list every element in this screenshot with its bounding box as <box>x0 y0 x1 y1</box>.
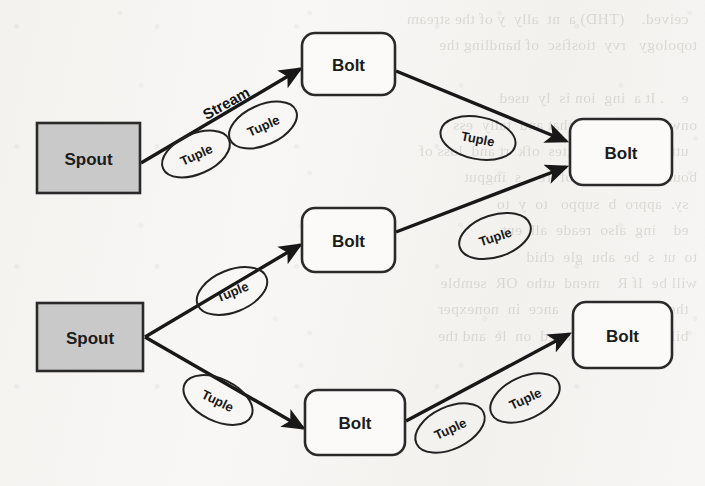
node-spout-1-label: Spout <box>64 150 112 169</box>
node-bolt-5[interactable]: Bolt <box>573 302 672 368</box>
edge-spout2-to-bolt3 <box>145 337 303 428</box>
node-spout-2[interactable]: Spout <box>37 303 143 371</box>
tuple-annotation-6: Tuple <box>176 365 261 435</box>
scanned-page: ceived. (THD) a nt ally y of the stream … <box>0 0 705 486</box>
node-bolt-1[interactable]: Bolt <box>302 33 395 95</box>
node-bolt-4-label: Bolt <box>604 144 637 163</box>
node-bolt-2[interactable]: Bolt <box>302 208 395 272</box>
tuple-label-1: Tuple <box>178 141 215 168</box>
tuple-label-3: Tuple <box>460 128 496 149</box>
node-bolt-2-label: Bolt <box>332 232 365 251</box>
storm-topology-diagram: Spout Spout Bolt Bolt Bolt Bolt <box>0 0 705 486</box>
tuple-label-2: Tuple <box>245 112 282 139</box>
node-spout-2-label: Spout <box>66 329 114 348</box>
edge-bolt1-to-bolt4 <box>396 71 566 141</box>
node-bolt-5-label: Bolt <box>606 327 639 346</box>
node-bolt-3-label: Bolt <box>338 414 371 433</box>
tuple-label-6: Tuple <box>199 387 236 415</box>
node-bolt-4[interactable]: Bolt <box>570 119 672 185</box>
tuple-label-8: Tuple <box>507 385 544 413</box>
nodes-layer: Spout Spout Bolt Bolt Bolt Bolt <box>37 33 672 455</box>
edge-bolt3-to-bolt5 <box>406 334 569 421</box>
tuple-annotation-4: Tuple <box>453 205 536 268</box>
node-spout-1[interactable]: Spout <box>37 123 140 193</box>
node-bolt-3[interactable]: Bolt <box>305 390 405 455</box>
tuple-annotation-7: Tuple <box>408 393 493 462</box>
tuple-label-4: Tuple <box>477 225 514 250</box>
node-bolt-1-label: Bolt <box>332 56 365 75</box>
edge-bolt2-to-bolt4 <box>396 167 566 232</box>
tuple-label-7: Tuple <box>432 415 469 443</box>
tuple-label-5: Tuple <box>214 279 251 306</box>
